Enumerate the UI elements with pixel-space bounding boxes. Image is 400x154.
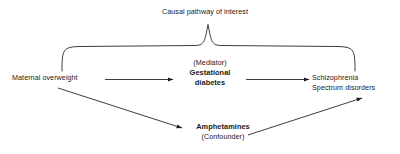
confounder-label: Amphetamines	[186, 122, 260, 132]
edge-confounder-to-outcome	[248, 98, 362, 135]
mediator-label-line2: diabetes	[176, 78, 244, 88]
confounder-role-label: (Confounder)	[186, 132, 260, 142]
node-amphetamines: Amphetamines (Confounder)	[186, 122, 260, 142]
edge-exposure-to-confounder	[58, 88, 182, 128]
mediator-label-line1: Gestational	[176, 68, 244, 78]
causal-pathway-diagram: Causal pathway of interest Maternal over…	[0, 0, 400, 154]
node-maternal-overweight: Maternal overweight	[12, 73, 78, 83]
node-gestational-diabetes: (Mediator) Gestational diabetes	[176, 58, 244, 88]
mediator-role-label: (Mediator)	[176, 58, 244, 68]
node-schizophrenia-spectrum-disorders: Schizophrenia Spectrum disorders	[312, 73, 375, 93]
outcome-label-line2: Spectrum disorders	[312, 83, 375, 93]
brace-title: Causal pathway of interest	[162, 7, 248, 17]
outcome-label-line1: Schizophrenia	[312, 73, 375, 83]
